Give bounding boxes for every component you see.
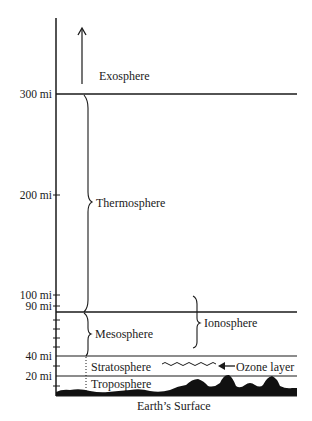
ozone-wave — [162, 363, 216, 366]
label-thermosphere: Thermosphere — [96, 197, 165, 209]
arrow-left-icon — [218, 362, 235, 370]
label-exosphere: Exosphere — [99, 70, 150, 82]
thermosphere-brace — [84, 95, 92, 312]
label-ionosphere: Ionosphere — [204, 317, 257, 329]
tick-label-300mi: 300 mi — [2, 88, 52, 100]
tick-label-20mi: 20 mi — [2, 370, 52, 382]
mesosphere-brace — [84, 313, 91, 356]
tick-label-40mi: 40 mi — [2, 350, 52, 362]
ionosphere-brace — [193, 296, 200, 348]
arrow-up-icon — [78, 28, 86, 84]
label-mesosphere: Mesosphere — [95, 328, 153, 340]
label-stratosphere: Stratosphere — [91, 361, 151, 373]
label-ozone-layer: Ozone layer — [236, 361, 294, 373]
tick-label-90mi: 90 mi — [2, 300, 52, 312]
label-earth-surface: Earth’s Surface — [137, 400, 211, 412]
tick-label-200mi: 200 mi — [2, 189, 52, 201]
label-troposphere: Troposphere — [91, 378, 151, 390]
